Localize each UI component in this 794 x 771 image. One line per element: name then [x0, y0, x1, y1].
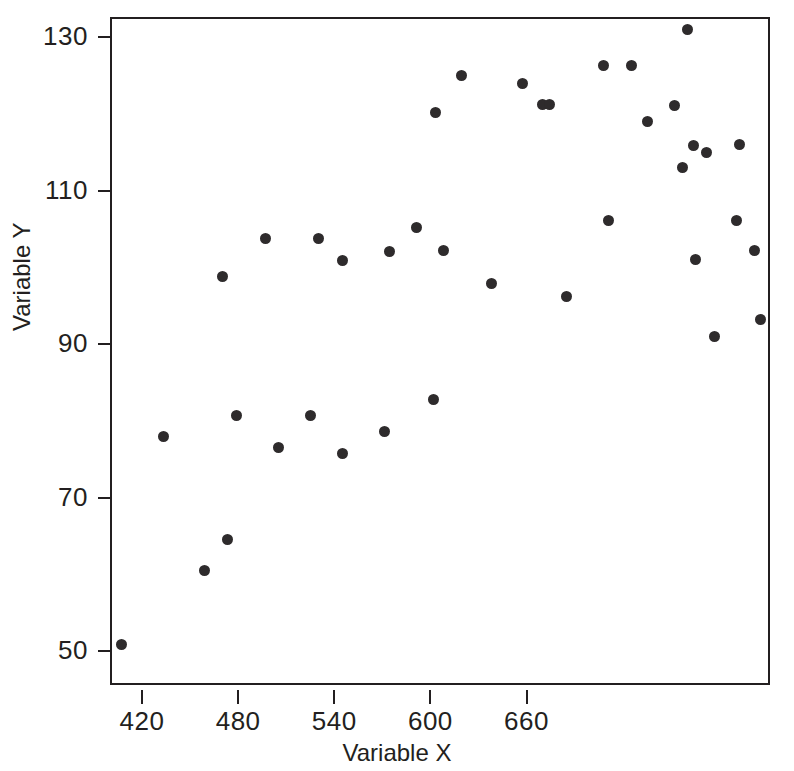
- data-point: [313, 233, 324, 244]
- data-point: [305, 410, 316, 421]
- data-point: [749, 245, 760, 256]
- data-point: [217, 271, 228, 282]
- data-point: [273, 442, 284, 453]
- scatter-plot-figure: Variable Y Variable X 507090110130420480…: [0, 0, 794, 771]
- data-point: [561, 291, 572, 302]
- data-point: [411, 222, 422, 233]
- data-point: [199, 565, 210, 576]
- x-tick-label: 480: [216, 708, 261, 734]
- x-axis-title: Variable X: [0, 741, 794, 765]
- x-tick-mark: [237, 690, 239, 704]
- data-point: [337, 448, 348, 459]
- data-point: [734, 139, 745, 150]
- data-point: [544, 99, 555, 110]
- data-point: [598, 60, 609, 71]
- y-tick-mark: [98, 650, 111, 652]
- data-point: [384, 246, 395, 257]
- data-point: [486, 278, 497, 289]
- y-tick-label: 70: [58, 484, 88, 510]
- y-tick-label: 90: [58, 330, 88, 356]
- data-point: [428, 394, 439, 405]
- y-tick-label: 110: [45, 177, 88, 203]
- y-tick-mark: [98, 343, 111, 345]
- y-tick-mark: [98, 36, 111, 38]
- data-point: [116, 639, 127, 650]
- data-point: [603, 215, 614, 226]
- y-tick-label: 50: [58, 637, 88, 663]
- data-point: [709, 331, 720, 342]
- data-point: [337, 255, 348, 266]
- y-tick-label: 130: [43, 23, 88, 49]
- y-tick-mark: [98, 190, 111, 192]
- data-point: [626, 60, 637, 71]
- data-point: [379, 426, 390, 437]
- x-tick-mark: [526, 690, 528, 704]
- data-point: [231, 410, 242, 421]
- x-tick-mark: [429, 690, 431, 704]
- x-tick-label: 540: [312, 708, 357, 734]
- data-point: [677, 162, 688, 173]
- y-axis-title: Variable Y: [10, 285, 34, 331]
- data-point: [701, 147, 712, 158]
- x-tick-label: 420: [120, 708, 165, 734]
- data-points-layer: [112, 19, 772, 687]
- data-point: [517, 78, 528, 89]
- x-tick-mark: [141, 690, 143, 704]
- x-tick-mark: [333, 690, 335, 704]
- data-point: [669, 100, 680, 111]
- data-point: [260, 233, 271, 244]
- data-point: [158, 431, 169, 442]
- y-tick-mark: [98, 497, 111, 499]
- data-point: [688, 140, 699, 151]
- data-point: [690, 254, 701, 265]
- data-point: [755, 314, 766, 325]
- data-point: [642, 116, 653, 127]
- data-point: [222, 534, 233, 545]
- data-point: [456, 70, 467, 81]
- plot-area-frame: [110, 17, 770, 685]
- data-point: [731, 215, 742, 226]
- x-tick-label: 600: [408, 708, 453, 734]
- data-point: [438, 245, 449, 256]
- data-point: [682, 24, 693, 35]
- x-tick-label: 660: [504, 708, 549, 734]
- data-point: [430, 107, 441, 118]
